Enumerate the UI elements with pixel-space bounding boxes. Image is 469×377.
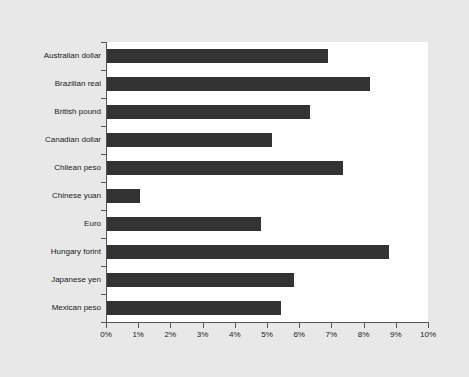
- x-tick-mark: [138, 323, 139, 328]
- y-tick-mark: [101, 154, 106, 155]
- bar: [106, 273, 294, 287]
- y-axis-label: Brazilian real: [5, 79, 101, 89]
- y-axis-label: Chilean peso: [5, 163, 101, 173]
- bar-row: [106, 154, 428, 182]
- y-tick-mark: [101, 126, 106, 127]
- bar: [106, 217, 261, 231]
- bars-layer: [106, 42, 428, 322]
- x-tick-label: 10%: [413, 330, 443, 340]
- x-tick-label: 7%: [316, 330, 346, 340]
- x-tick-label: 1%: [123, 330, 153, 340]
- y-tick-mark: [101, 238, 106, 239]
- y-tick-mark: [101, 210, 106, 211]
- x-tick-label: 0%: [91, 330, 121, 340]
- y-label-slot: Australian dollar: [0, 42, 101, 70]
- y-tick-mark: [101, 294, 106, 295]
- x-tick-mark: [203, 323, 204, 328]
- x-tick-label: 3%: [188, 330, 218, 340]
- x-tick-label: 4%: [220, 330, 250, 340]
- x-tick-mark: [428, 323, 429, 328]
- bar: [106, 133, 272, 147]
- y-axis-label: Japanese yen: [5, 275, 101, 285]
- y-tick-mark: [101, 182, 106, 183]
- y-label-slot: British pound: [0, 98, 101, 126]
- bar: [106, 161, 343, 175]
- y-axis-label: Chinese yuan: [5, 191, 101, 201]
- bar-row: [106, 238, 428, 266]
- bar-row: [106, 294, 428, 322]
- bar: [106, 301, 281, 315]
- y-label-slot: Chinese yuan: [0, 182, 101, 210]
- x-tick-mark: [267, 323, 268, 328]
- x-tick-mark: [170, 323, 171, 328]
- x-tick-mark: [331, 323, 332, 328]
- bar-row: [106, 70, 428, 98]
- y-axis-label: Mexican peso: [5, 303, 101, 313]
- bar-chart: Australian dollarBrazilian realBritish p…: [0, 0, 469, 377]
- y-tick-mark: [101, 42, 106, 43]
- bar-row: [106, 42, 428, 70]
- x-tick-mark: [396, 323, 397, 328]
- x-tick-mark: [235, 323, 236, 328]
- bar: [106, 105, 310, 119]
- y-label-slot: Mexican peso: [0, 294, 101, 322]
- bar: [106, 77, 370, 91]
- x-tick-label: 9%: [381, 330, 411, 340]
- y-axis-label: Australian dollar: [5, 51, 101, 61]
- x-tick-label: 8%: [349, 330, 379, 340]
- x-tick-label: 2%: [155, 330, 185, 340]
- y-axis-label: British pound: [5, 107, 101, 117]
- bar-row: [106, 266, 428, 294]
- y-tick-mark: [101, 322, 106, 323]
- bar-row: [106, 182, 428, 210]
- y-label-slot: Japanese yen: [0, 266, 101, 294]
- y-label-slot: Brazilian real: [0, 70, 101, 98]
- y-axis-label: Euro: [5, 219, 101, 229]
- y-tick-mark: [101, 98, 106, 99]
- bar-row: [106, 210, 428, 238]
- x-tick-mark: [299, 323, 300, 328]
- y-label-slot: Hungary forint: [0, 238, 101, 266]
- y-label-slot: Chilean peso: [0, 154, 101, 182]
- x-tick-mark: [364, 323, 365, 328]
- x-tick-label: 5%: [252, 330, 282, 340]
- bar: [106, 189, 140, 203]
- x-tick-mark: [106, 323, 107, 328]
- x-tick-label: 6%: [284, 330, 314, 340]
- bar-row: [106, 98, 428, 126]
- y-axis-label: Hungary forint: [5, 247, 101, 257]
- y-tick-mark: [101, 266, 106, 267]
- y-axis-label: Canadian dollar: [5, 135, 101, 145]
- y-tick-mark: [101, 70, 106, 71]
- y-label-slot: Canadian dollar: [0, 126, 101, 154]
- bar: [106, 49, 328, 63]
- y-axis-labels: Australian dollarBrazilian realBritish p…: [0, 42, 101, 322]
- bar: [106, 245, 389, 259]
- bar-row: [106, 126, 428, 154]
- y-axis-line: [106, 42, 107, 323]
- y-label-slot: Euro: [0, 210, 101, 238]
